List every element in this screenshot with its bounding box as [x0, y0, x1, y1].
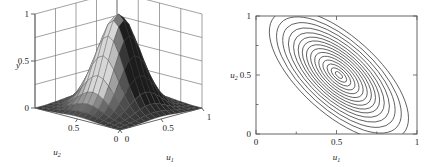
contour-u2-axis-label: u2 [230, 70, 238, 81]
contour-plot-panel: 00.5100.51u1u2 [215, 0, 430, 167]
contour-ytick-1: 0.5 [240, 70, 252, 80]
surface-ztick-0: 0 [25, 103, 30, 113]
contour-u1-axis-label: u1 [333, 152, 341, 163]
contour-level-10 [280, 18, 398, 131]
contour-axis-labels: 00.5100.51u1u2 [230, 11, 419, 163]
contour-level-11 [273, 12, 404, 138]
contour-level-13 [258, 0, 420, 153]
surface-u2-axis-label: u2 [53, 147, 61, 158]
contour-xtick-1: 0.5 [331, 137, 343, 147]
two-panel-figure: 00.510.5000.51yu2u1 00.5100.51u1u2 [0, 0, 430, 167]
contour-ytick-2: 1 [247, 11, 252, 21]
contour-level-5 [307, 45, 370, 105]
surface-u1tick-2: 1 [207, 112, 212, 122]
contour-xtick-0: 0 [254, 137, 259, 147]
surface-u1-axis-label: u1 [166, 152, 174, 163]
surface-y-axis-label: y [15, 60, 20, 70]
surface-u1tick-1: 0.5 [162, 123, 174, 133]
surface-plot-panel: 00.510.5000.51yu2u1 [0, 0, 215, 167]
surface-ztick-2: 1 [25, 9, 30, 19]
contour-level-2 [324, 60, 355, 90]
contour-plot-svg: 00.5100.51u1u2 [215, 0, 430, 167]
surface-u2tick-1: 0 [114, 134, 119, 144]
contour-level-12 [266, 5, 412, 145]
surface-mesh [35, 14, 202, 130]
contour-xtick-2: 1 [415, 137, 420, 147]
surface-u2tick-0: 0.5 [68, 123, 80, 133]
contour-level-1 [329, 65, 349, 84]
contour-level-6 [302, 40, 376, 111]
surface-plot-svg: 00.510.5000.51yu2u1 [0, 0, 215, 167]
surface-u1tick-0: 0 [125, 134, 130, 144]
contour-ytick-0: 0 [247, 129, 252, 139]
